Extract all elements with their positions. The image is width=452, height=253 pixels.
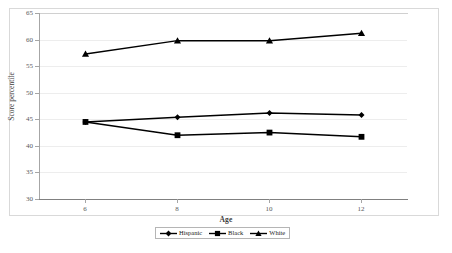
gridline-60 xyxy=(39,40,407,41)
x-tick-mark xyxy=(85,199,86,203)
x-tick-label-12: 12 xyxy=(346,205,376,214)
y-tick-label-65: 65 xyxy=(5,9,33,17)
legend-key-square-icon xyxy=(209,229,226,238)
chart-container: 65 60 55 50 45 40 35 30 6 8 10 12 Age Sc… xyxy=(0,0,452,253)
y-tick-mark xyxy=(35,172,39,173)
x-tick-label-8: 8 xyxy=(162,205,192,214)
legend-label-hispanic: Hispanic xyxy=(179,229,202,237)
y-tick-mark xyxy=(35,93,39,94)
y-tick-label-40: 40 xyxy=(5,142,33,150)
legend-key-triangle-icon xyxy=(250,229,267,238)
chart-legend: Hispanic Black White xyxy=(155,227,290,239)
legend-entry-white[interactable]: White xyxy=(250,229,285,238)
gridline-50 xyxy=(39,93,407,94)
y-tick-mark xyxy=(35,40,39,41)
y-tick-mark xyxy=(35,199,39,200)
y-tick-label-60: 60 xyxy=(5,36,33,44)
x-axis-line xyxy=(39,199,408,200)
legend-key-diamond-icon xyxy=(160,229,177,238)
gridline-45 xyxy=(39,119,407,120)
gridline-35 xyxy=(39,172,407,173)
gridline-55 xyxy=(39,66,407,67)
legend-label-white: White xyxy=(269,229,285,237)
x-axis-title: Age xyxy=(0,215,452,224)
x-tick-label-10: 10 xyxy=(254,205,284,214)
y-tick-mark xyxy=(35,66,39,67)
y-tick-mark xyxy=(35,13,39,14)
legend-label-black: Black xyxy=(228,229,243,237)
y-tick-label-35: 35 xyxy=(5,168,33,176)
plot-border-top xyxy=(39,13,408,14)
x-tick-mark xyxy=(177,199,178,203)
x-tick-mark xyxy=(269,199,270,203)
y-axis-line xyxy=(39,13,40,200)
legend-entry-black[interactable]: Black xyxy=(209,229,243,238)
y-tick-mark xyxy=(35,146,39,147)
x-tick-label-6: 6 xyxy=(70,205,100,214)
y-tick-mark xyxy=(35,119,39,120)
x-tick-mark xyxy=(361,199,362,203)
legend-entry-hispanic[interactable]: Hispanic xyxy=(160,229,202,238)
y-axis-title: Score percentile xyxy=(7,52,16,142)
gridline-40 xyxy=(39,146,407,147)
y-tick-label-30: 30 xyxy=(5,195,33,203)
